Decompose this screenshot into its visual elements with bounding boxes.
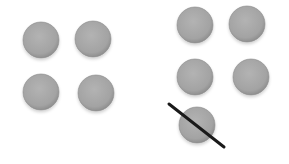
dot — [78, 75, 114, 111]
dot — [75, 21, 111, 57]
dot — [177, 7, 213, 43]
dot — [177, 59, 213, 95]
dot-diagram — [0, 0, 289, 164]
dot — [233, 59, 269, 95]
dot — [229, 6, 265, 42]
left-dot-group — [23, 21, 114, 111]
dot — [23, 74, 59, 110]
dot — [23, 22, 59, 58]
